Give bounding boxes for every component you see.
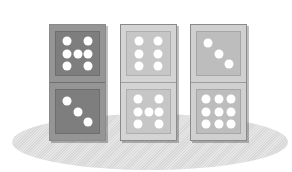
domino-divider [121, 82, 176, 83]
domino-divider [191, 82, 246, 83]
domino-2-bottom-face [126, 89, 171, 134]
pip [155, 107, 164, 116]
domino-3-bottom-face [196, 89, 241, 134]
pip [153, 61, 162, 70]
pip [155, 95, 164, 104]
pip [133, 119, 142, 128]
domino-3 [190, 24, 247, 141]
pip [214, 95, 223, 104]
pip [73, 107, 82, 116]
pip [62, 96, 71, 105]
pip [225, 60, 234, 69]
pip [133, 95, 142, 104]
domino-2 [120, 24, 177, 141]
pip [73, 49, 82, 58]
pip [214, 119, 223, 128]
domino-1-bottom-face [55, 89, 100, 134]
pip [226, 119, 235, 128]
pip [62, 49, 71, 58]
domino-divider [50, 82, 105, 83]
pip [214, 49, 223, 58]
pip [62, 37, 71, 46]
domino-3-top-face [196, 31, 241, 76]
pip [84, 49, 93, 58]
pip [135, 61, 144, 70]
pip [84, 37, 93, 46]
domino-2-top-face [126, 31, 171, 76]
pip [153, 37, 162, 46]
pip [226, 107, 235, 116]
pip [133, 107, 142, 116]
pip [203, 38, 212, 47]
pip [226, 95, 235, 104]
pip [202, 107, 211, 116]
pip [202, 119, 211, 128]
pip [153, 49, 162, 58]
pip [62, 61, 71, 70]
pip [135, 49, 144, 58]
pip [135, 37, 144, 46]
pip [84, 61, 93, 70]
pip [155, 119, 164, 128]
pip [202, 95, 211, 104]
domino-1 [49, 24, 106, 141]
pip [214, 107, 223, 116]
pip [144, 107, 153, 116]
pip [84, 118, 93, 127]
domino-1-top-face [55, 31, 100, 76]
